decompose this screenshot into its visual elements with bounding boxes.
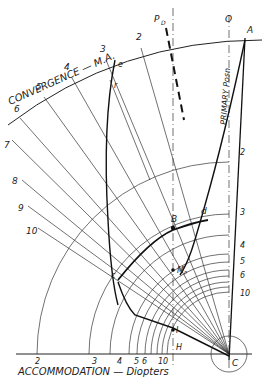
convergence-tick-9: 9 — [18, 203, 24, 213]
right-scale-tick-5: 5 — [240, 257, 245, 266]
accommodation-title: ACCOMMODATION — Diopters — [17, 366, 169, 377]
label-c: c — [111, 271, 116, 280]
right-scale-tick-2: 2 — [240, 148, 245, 157]
radial-line-2 — [141, 48, 229, 354]
label-e: e — [118, 60, 123, 69]
right-scale-tick-6: 6 — [240, 271, 245, 280]
convergence-accommodation-diagram: 2345678910 2345610 2345610 CONVERGENCE —… — [0, 0, 265, 385]
accommodation-tick-5: 5 — [134, 357, 139, 366]
convergence-tick-6: 6 — [14, 104, 20, 114]
line-r — [110, 80, 150, 180]
label-d: d — [201, 206, 207, 216]
point-I — [171, 328, 175, 332]
curve-e-lower — [106, 60, 118, 305]
label-A: A — [246, 25, 253, 35]
convergence-title: CONVERGENCE — M.A. — [6, 50, 116, 107]
radial-line-8 — [22, 180, 229, 354]
primary-position-label: PRIMARY Posn — [219, 68, 232, 126]
label-Mp-sub: P — [184, 270, 187, 276]
right-scale-labels: 2345610 — [240, 148, 250, 298]
radial-line-7 — [12, 140, 229, 354]
radial-line-10 — [38, 228, 229, 354]
label-B: B — [171, 214, 177, 224]
label-H: H — [176, 343, 182, 352]
accommodation-tick-10: 10 — [158, 357, 168, 366]
accommodation-tick-2: 2 — [35, 357, 40, 366]
accommodation-tick-4: 4 — [117, 357, 122, 366]
label-C: C — [232, 358, 239, 368]
label-r: r — [114, 81, 118, 90]
line-A-C — [229, 38, 245, 360]
radial-line-3 — [106, 60, 229, 354]
point-Mp — [171, 268, 175, 272]
pd-dashed-segment — [166, 28, 184, 120]
convergence-tick-10: 10 — [26, 226, 38, 236]
label-PD-sub: D — [161, 19, 166, 26]
point-B — [171, 226, 175, 230]
accommodation-tick-6: 6 — [142, 357, 147, 366]
accommodation-tick-labels: 2345610 — [35, 357, 168, 366]
convergence-tick-7: 7 — [4, 140, 10, 150]
label-O: O — [225, 14, 232, 24]
curve-c-I — [118, 282, 229, 356]
convergence-tick-8: 8 — [12, 176, 18, 186]
radial-line-6 — [20, 118, 229, 354]
right-scale-tick-4: 4 — [240, 241, 245, 250]
right-scale-tick-3: 3 — [240, 208, 245, 217]
label-Mp: M — [177, 266, 184, 275]
label-PD: P — [154, 14, 160, 24]
right-scale-tick-10: 10 — [240, 289, 250, 298]
convergence-tick-2: 2 — [136, 32, 142, 42]
convergence-radial-lines — [12, 48, 229, 354]
accommodation-tick-3: 3 — [92, 357, 97, 366]
